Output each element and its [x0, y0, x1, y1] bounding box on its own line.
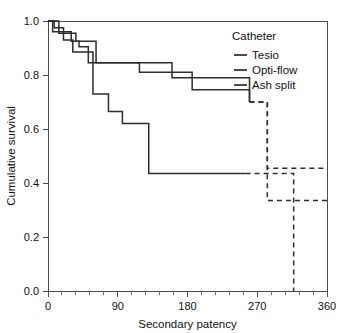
x-tick-label: 360	[318, 300, 336, 312]
curve-tesio-censored-extension	[250, 102, 328, 168]
legend-title: Catheter	[232, 30, 276, 42]
y-axis-tick-labels: 1.0 0.8 0.6 0.4 0.2 0.0	[24, 15, 39, 297]
x-tick-label: 180	[178, 300, 196, 312]
y-tick-label: 0.4	[24, 177, 39, 189]
km-survival-chart: 1.0 0.8 0.6 0.4 0.2 0.0 0 90 180 270 360…	[0, 0, 354, 333]
y-tick-label: 0.0	[24, 285, 39, 297]
curve-opti-flow	[48, 21, 250, 102]
y-axis-ticks	[43, 21, 48, 291]
chart-canvas: 1.0 0.8 0.6 0.4 0.2 0.0 0 90 180 270 360…	[0, 0, 354, 333]
y-tick-label: 1.0	[24, 15, 39, 27]
curve-ash-split	[48, 21, 246, 174]
curve-opti-flow-censored-extension	[250, 102, 328, 201]
legend-label-ash-split: Ash split	[252, 79, 296, 91]
legend-label-opti-flow: Opti-flow	[252, 64, 298, 76]
survival-curves	[48, 21, 327, 291]
y-tick-label: 0.2	[24, 231, 39, 243]
x-axis-title: Secondary patency	[138, 318, 237, 330]
curve-ash-split-censored-extension	[246, 174, 294, 291]
chart-legend: Catheter Tesio Opti-flow Ash split	[232, 30, 298, 91]
x-tick-label: 0	[45, 300, 51, 312]
y-axis-title: Cumulative survival	[5, 106, 17, 206]
y-tick-label: 0.8	[24, 69, 39, 81]
x-axis-tick-labels: 0 90 180 270 360	[45, 300, 336, 312]
x-tick-label: 270	[248, 300, 266, 312]
legend-label-tesio: Tesio	[252, 49, 279, 61]
x-tick-label: 90	[112, 300, 124, 312]
y-tick-label: 0.6	[24, 123, 39, 135]
